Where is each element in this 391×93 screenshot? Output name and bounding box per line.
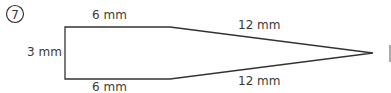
label-bottom-slant: 12 mm bbox=[238, 74, 280, 88]
label-top-slant: 12 mm bbox=[238, 18, 280, 32]
label-left-side: 3 mm bbox=[27, 45, 62, 59]
label-top-rect: 6 mm bbox=[92, 8, 127, 22]
label-bottom-rect: 6 mm bbox=[92, 80, 127, 93]
